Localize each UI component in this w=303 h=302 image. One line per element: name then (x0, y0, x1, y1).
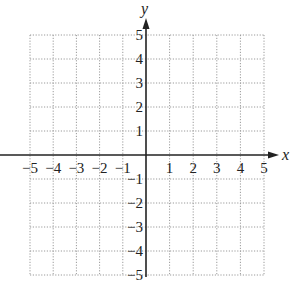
y-tick-label: −1 (127, 171, 143, 187)
coordinate-plane: −5−4−3−2−112345−5−4−3−2−112345 x y (0, 0, 303, 302)
x-tick-label: 2 (189, 160, 197, 176)
x-tick-label: −5 (22, 160, 38, 176)
y-tick-label: 3 (136, 75, 144, 91)
y-tick-label: 2 (136, 99, 144, 115)
y-tick-label: −2 (127, 195, 143, 211)
x-tick-label: 4 (237, 160, 245, 176)
y-tick-label: −4 (127, 243, 143, 259)
y-axis-arrow-icon (143, 18, 150, 29)
x-axis-arrow-icon (268, 152, 279, 159)
x-tick-label: −2 (92, 160, 108, 176)
x-tick-label: 3 (213, 160, 221, 176)
y-axis-label: y (139, 0, 149, 18)
x-tick-label: −3 (68, 160, 84, 176)
y-tick-label: −5 (127, 267, 143, 283)
y-tick-label: 5 (136, 27, 144, 43)
y-tick-label: 4 (136, 51, 144, 67)
x-tick-label: 1 (166, 160, 174, 176)
x-axis-label: x (281, 146, 289, 163)
x-tick-label: 5 (260, 160, 268, 176)
y-tick-label: 1 (136, 123, 144, 139)
y-tick-label: −3 (127, 219, 143, 235)
x-tick-label: −4 (45, 160, 61, 176)
